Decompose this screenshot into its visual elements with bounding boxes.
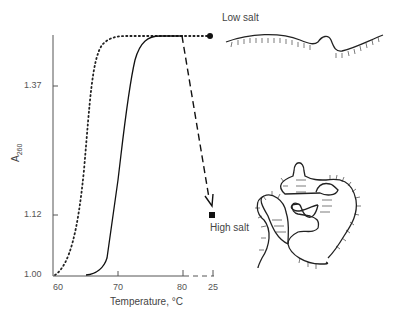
x-tick-label-60: 60 [53, 282, 63, 292]
high-salt-label: High salt [210, 222, 249, 233]
arrow-head-icon [205, 194, 213, 206]
y-tick-label-1-00: 1.00 [24, 269, 42, 279]
low-salt-label: Low salt [222, 12, 259, 23]
series-solid-curve [86, 36, 183, 275]
y-tick-label-1-37: 1.37 [24, 80, 42, 90]
y-axis-title-main: A [10, 155, 21, 162]
folded-rna-icon [255, 163, 361, 269]
x-tick-label-70: 70 [113, 282, 123, 292]
low-salt-marker [207, 33, 213, 39]
x-tick-label-25: 25 [208, 282, 218, 292]
x-axis-title: Temperature, °C [110, 296, 183, 307]
x-tick-label-80: 80 [177, 282, 187, 292]
high-salt-marker [209, 212, 215, 218]
chart-canvas [0, 0, 396, 319]
y-tick-label-1-12: 1.12 [24, 209, 42, 219]
series-dashed-line [182, 36, 209, 198]
y-axis-title-sub: 260 [16, 144, 23, 156]
y-axis-title: A260 [10, 144, 23, 162]
extended-rna-icon [226, 35, 383, 58]
